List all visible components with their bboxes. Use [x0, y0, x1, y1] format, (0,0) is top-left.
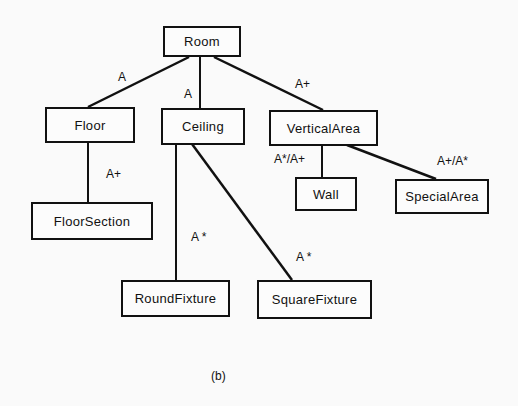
edge-label-floor-floorsection: A+ — [106, 168, 121, 180]
edge-label-verticalarea-specialarea: A+/A* — [437, 155, 468, 167]
node-verticalarea: VerticalArea — [269, 110, 378, 146]
edge-label-verticalarea-wall: A*/A+ — [274, 153, 305, 165]
edge-label-room-floor: A — [118, 71, 126, 83]
figure-caption: (b) — [211, 369, 226, 383]
edge-label-room-verticalarea: A+ — [295, 78, 310, 90]
node-roundfixture: RoundFixture — [121, 280, 230, 317]
edge-label-ceiling-squarefixture: A * — [296, 251, 311, 263]
node-floor: Floor — [45, 107, 135, 143]
node-ceiling: Ceiling — [161, 108, 245, 145]
edge-label-ceiling-roundfixture: A * — [191, 231, 206, 243]
edge-label-room-ceiling: A — [184, 88, 192, 100]
node-room: Room — [163, 26, 241, 57]
edge-verticalarea-specialarea — [347, 145, 436, 179]
node-squarefixture: SquareFixture — [257, 280, 372, 319]
node-wall: Wall — [295, 177, 357, 211]
node-specialarea: SpecialArea — [395, 179, 489, 214]
edge-room-floor — [88, 57, 189, 107]
node-floorsection: FloorSection — [31, 202, 153, 240]
